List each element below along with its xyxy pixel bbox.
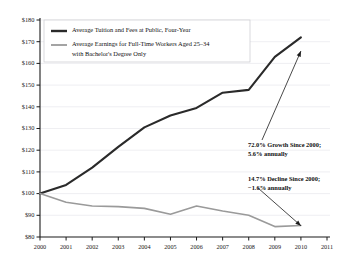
y-tick-label: $140 — [22, 103, 35, 110]
y-tick-label: $120 — [22, 146, 35, 153]
x-tick-label: 2010 — [295, 243, 307, 250]
x-tick-label: 2000 — [34, 243, 46, 250]
x-tick-label: 2011 — [321, 243, 333, 250]
x-tick-label: 2009 — [269, 243, 281, 250]
legend-label-1: Average Earnings for Full-Time Workers A… — [72, 40, 210, 47]
x-tick-label: 2006 — [190, 243, 202, 250]
x-tick-label: 2003 — [112, 243, 124, 250]
annotation-line1: 72.0% Growth Since 2000; — [248, 141, 321, 148]
line-chart: $80$90$100$110$120$130$140$150$160$170$1… — [0, 0, 361, 266]
y-tick-label: $160 — [22, 59, 35, 66]
y-tick-label: $130 — [22, 124, 35, 131]
y-tick-label: $180 — [22, 16, 35, 23]
y-tick-label: $90 — [25, 211, 35, 218]
x-tick-label: 2005 — [164, 243, 176, 250]
y-tick-label: $170 — [22, 38, 35, 45]
y-tick-label: $110 — [22, 168, 35, 175]
legend-label-1-line2: with Bachelor's Degree Only — [72, 50, 147, 57]
annotation-line2: 5.6% annually — [248, 150, 289, 157]
y-tick-label: $80 — [25, 233, 35, 240]
legend-label-0: Average Tuition and Fees at Public, Four… — [72, 26, 191, 33]
x-tick-label: 2008 — [243, 243, 255, 250]
y-tick-label: $150 — [22, 81, 35, 88]
chart-legend: Average Tuition and Fees at Public, Four… — [44, 20, 250, 62]
x-tick-label: 2001 — [60, 243, 72, 250]
chart-container: $80$90$100$110$120$130$140$150$160$170$1… — [0, 0, 361, 266]
x-tick-label: 2002 — [86, 243, 98, 250]
annotation-line1: 14.7% Decline Since 2000; — [248, 175, 320, 182]
annotation-line2: −1.6% annually — [248, 184, 292, 191]
x-tick-label: 2004 — [138, 243, 150, 250]
x-tick-label: 2007 — [216, 243, 228, 250]
y-tick-label: $100 — [22, 189, 35, 196]
